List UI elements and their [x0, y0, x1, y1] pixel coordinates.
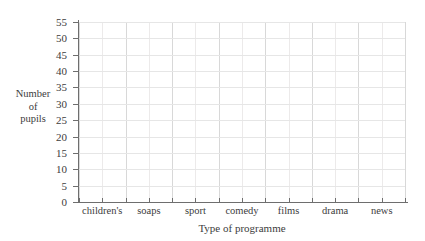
y-axis-title-line-3: pupils	[4, 113, 62, 126]
y-axis-tick-mark	[73, 55, 79, 56]
y-axis-tick-mark	[73, 153, 79, 154]
x-axis-tick-mark	[242, 198, 243, 203]
y-axis-tick-label: 45	[56, 50, 67, 61]
y-axis-tick-mark	[73, 38, 79, 39]
y-axis-tick-mark	[73, 104, 79, 105]
y-axis-tick-mark	[73, 120, 79, 121]
y-axis-tick-mark	[73, 22, 79, 23]
plot-area	[79, 22, 405, 202]
x-axis-tick-mark	[79, 198, 80, 203]
y-axis-tick-mark	[73, 71, 79, 72]
y-axis-title: Number of pupils	[4, 88, 62, 126]
x-axis-tick-mark	[335, 198, 336, 203]
x-axis-tick-mark	[312, 198, 313, 203]
y-axis-tick-label: 40	[56, 66, 67, 77]
y-axis-tick-label: 35	[56, 82, 67, 93]
x-axis-tick-mark	[382, 198, 383, 203]
y-axis-tick-label: 5	[62, 181, 68, 192]
bar-chart-figure: Number of pupils 0510152025303540455055 …	[0, 0, 425, 241]
y-axis-tick-mark	[73, 87, 79, 88]
x-axis-tick-mark	[172, 198, 173, 203]
y-axis-tick-label: 55	[56, 17, 67, 28]
x-axis-title: Type of programme	[79, 222, 405, 235]
y-axis-title-line-2: of	[4, 101, 62, 114]
x-axis-tick-mark	[149, 198, 150, 203]
y-axis-tick-mark	[73, 186, 79, 187]
y-axis-line	[78, 20, 79, 203]
y-axis-tick-mark	[73, 169, 79, 170]
y-axis-tick-mark	[73, 137, 79, 138]
x-axis-tick-mark	[265, 198, 266, 203]
grid-line-vertical	[405, 22, 406, 202]
y-axis-tick-label: 25	[56, 115, 67, 126]
bars-layer	[79, 22, 405, 202]
y-axis-tick-label: 30	[56, 99, 67, 110]
x-axis-tick-mark	[195, 198, 196, 203]
x-axis-tick-mark	[289, 198, 290, 203]
x-axis-tick-mark	[126, 198, 127, 203]
y-axis-tick-label: 50	[56, 33, 67, 44]
x-axis-tick-mark	[405, 198, 406, 203]
y-axis-tick-label: 15	[56, 148, 67, 159]
x-axis-tick-mark	[358, 198, 359, 203]
x-axis-tick-mark	[102, 198, 103, 203]
y-axis-title-line-1: Number	[4, 88, 62, 101]
x-axis-category-label: news	[342, 205, 422, 217]
y-axis-tick-label: 20	[56, 132, 67, 143]
x-axis-tick-mark	[219, 198, 220, 203]
y-axis-tick-label: 10	[56, 164, 67, 175]
